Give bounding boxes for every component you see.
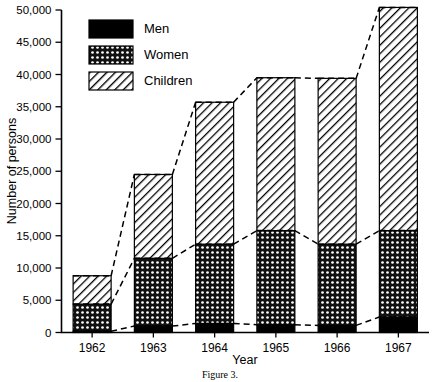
y-tick-label: 15,000 [16, 230, 51, 242]
x-tick-label: 1964 [201, 341, 228, 355]
y-axis-title: Number of persons [5, 118, 19, 224]
x-axis-title: Year [232, 353, 257, 367]
bar-segment-children [196, 102, 234, 244]
x-tick-label: 1966 [324, 341, 351, 355]
figure-caption: Figure 3. [202, 369, 238, 380]
bar-segment-men [318, 325, 356, 332]
y-tick-label: 30,000 [16, 133, 51, 145]
bar-segment-children [73, 276, 111, 304]
bar-stack [196, 102, 234, 332]
legend-label-women: Women [144, 47, 189, 62]
legend-label-men: Men [144, 21, 169, 36]
bar-segment-men [257, 325, 295, 333]
bar-chart: 05,00010,00015,00020,00025,00030,00035,0… [0, 0, 440, 382]
bar-segment-children [318, 78, 356, 244]
bar-segment-men [196, 323, 234, 332]
x-tick-label: 1967 [385, 341, 412, 355]
y-tick-label: 50,000 [16, 4, 51, 16]
bar-segment-children [379, 7, 417, 230]
legend-swatch-men [89, 20, 133, 38]
x-tick-label: 1962 [79, 341, 106, 355]
legend-label-children: Children [144, 73, 192, 88]
bar-segment-women [318, 244, 356, 325]
bar-segment-women [196, 244, 234, 323]
x-axis-ticks: 196219631964196519661967 [79, 333, 412, 355]
bar-stack [318, 78, 356, 332]
figure-container: 05,00010,00015,00020,00025,00030,00035,0… [0, 0, 440, 382]
bar-segment-men [134, 326, 172, 332]
bar-segment-women [134, 258, 172, 326]
legend-swatch-women [89, 46, 133, 64]
y-tick-label: 35,000 [16, 101, 51, 113]
y-tick-label: 25,000 [16, 165, 51, 177]
legend-swatch-children [89, 72, 133, 90]
bar-segment-children [134, 174, 172, 258]
y-tick-label: 45,000 [16, 36, 51, 48]
bar-segment-men [379, 317, 417, 332]
bar-stack [257, 78, 295, 333]
y-tick-label: 10,000 [16, 262, 51, 274]
bar-segment-women [379, 231, 417, 317]
x-tick-label: 1963 [140, 341, 167, 355]
bar-segment-women [257, 231, 295, 325]
y-tick-label: 40,000 [16, 69, 51, 81]
bar-segment-women [73, 304, 111, 331]
bar-segment-children [257, 78, 295, 231]
x-tick-label: 1965 [263, 341, 290, 355]
y-tick-label: 0 [45, 327, 51, 339]
bar-stack [379, 7, 417, 332]
y-tick-label: 5,000 [23, 294, 52, 306]
y-axis-ticks: 05,00010,00015,00020,00025,00030,00035,0… [16, 4, 61, 339]
y-tick-label: 20,000 [16, 198, 51, 210]
bar-stack [134, 174, 172, 332]
